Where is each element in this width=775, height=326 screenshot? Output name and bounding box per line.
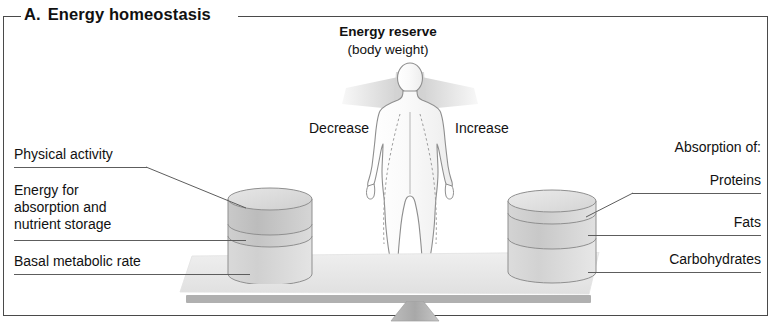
leader-rule-fats: [588, 235, 761, 236]
label-line-3: nutrient storage: [14, 216, 111, 232]
balance-fulcrum: [385, 301, 445, 323]
leader-rule-energy-absorption: [14, 240, 246, 241]
frame-border-left: [3, 16, 4, 316]
label-energy-absorption-storage: Energy for absorption and nutrient stora…: [14, 182, 164, 233]
label-decrease: Decrease: [309, 120, 369, 136]
label-proteins: Proteins: [541, 172, 761, 189]
label-absorption-of: Absorption of:: [541, 139, 761, 156]
label-line-2: absorption and: [14, 199, 107, 215]
label-carbohydrates: Carbohydrates: [541, 251, 761, 268]
panel-title-text: Energy homeostasis: [48, 5, 211, 23]
leader-rule-physical-activity: [14, 167, 147, 168]
label-physical-activity: Physical activity: [14, 146, 113, 163]
label-increase: Increase: [455, 120, 509, 136]
leader-rule-basal-metabolic-rate: [14, 274, 250, 275]
panel-title: A.Energy homeostasis: [24, 5, 211, 24]
human-figure-illustration: [340, 62, 480, 274]
figure-energy-homeostasis: A.Energy homeostasis Energy reserve (bod…: [0, 0, 775, 326]
leader-rule-proteins: [632, 193, 761, 194]
frame-border-right: [767, 16, 768, 316]
cylinder-nutrient-absorption: [506, 182, 598, 284]
label-line-1: Energy for: [14, 182, 79, 198]
energy-reserve-heading: Energy reserve: [258, 24, 518, 39]
leader-line-proteins: [586, 191, 646, 221]
energy-reserve-subheading: (body weight): [258, 42, 518, 57]
frame-border-top-left: [3, 16, 21, 17]
panel-letter: A.: [24, 5, 41, 23]
leader-line-physical-activity: [146, 160, 256, 212]
label-basal-metabolic-rate: Basal metabolic rate: [14, 253, 141, 270]
label-fats: Fats: [541, 214, 761, 231]
frame-border-top-right: [238, 16, 768, 17]
leader-rule-carbohydrates: [588, 272, 761, 273]
